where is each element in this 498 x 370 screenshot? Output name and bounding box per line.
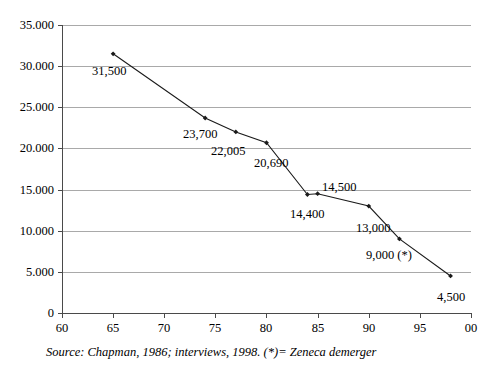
point-label-14500: 14,500 — [322, 181, 356, 194]
point-label-14400: 14,400 — [290, 208, 324, 221]
point-label-9000: 9,000 (*) — [366, 249, 412, 262]
point-label-31500: 31,500 — [92, 65, 126, 78]
data-point-22005 — [233, 130, 238, 135]
point-label-4500: 4,500 — [437, 291, 465, 304]
point-label-23700: 23,700 — [183, 128, 217, 141]
source-note: Source: Chapman, 1986; interviews, 1998.… — [46, 345, 376, 359]
data-point-14500 — [315, 191, 320, 196]
point-label-20690: 20,690 — [254, 157, 288, 170]
data-series-line — [0, 0, 498, 370]
point-label-13000: 13,000 — [356, 222, 390, 235]
chart-figure: 35.000 30.000 25.000 20.000 15.000 10.00… — [0, 0, 498, 370]
point-label-22005: 22,005 — [211, 145, 245, 158]
